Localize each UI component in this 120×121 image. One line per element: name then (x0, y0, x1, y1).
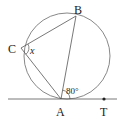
label-a: A (56, 105, 65, 119)
label-b: B (74, 3, 82, 17)
point-t-dot (102, 97, 105, 100)
segment-bc (21, 16, 76, 48)
angle-arc-bca (26, 44, 29, 54)
segment-ca (21, 48, 61, 99)
label-t: T (100, 105, 108, 119)
geometry-diagram: B C A T 80° x (0, 0, 120, 121)
label-c: C (8, 42, 16, 56)
angle-label-x: x (29, 45, 35, 56)
angle-label-80: 80° (66, 86, 79, 96)
